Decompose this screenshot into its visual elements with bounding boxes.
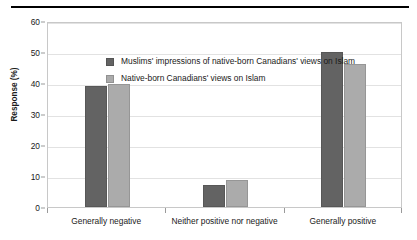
- legend-color-swatch: [106, 58, 114, 66]
- legend-label: Muslims' impressions of native-born Cana…: [121, 57, 355, 66]
- x-axis-tick-mark: [401, 208, 402, 213]
- top-horizontal-rule: [11, 6, 409, 8]
- y-axis-tick-label: 50: [31, 49, 40, 57]
- y-axis-tick-label: 0: [35, 204, 40, 212]
- x-axis-tick-labels: Generally negativeNeither positive nor n…: [47, 216, 402, 232]
- plot-area: Muslims' impressions of native-born Cana…: [47, 22, 402, 208]
- bar-group: [203, 23, 248, 207]
- y-axis-tick-mark: [41, 53, 45, 54]
- y-axis-title: Response (%): [10, 55, 19, 135]
- bar: [203, 185, 225, 207]
- y-axis-tick-label: 40: [31, 80, 40, 88]
- x-axis-tick-mark: [284, 208, 285, 213]
- bar-series-container: [48, 23, 401, 207]
- y-axis-tick-label: 10: [31, 173, 40, 181]
- legend-color-swatch: [106, 75, 114, 83]
- legend-item: Native-born Canadians' views on Islam: [106, 71, 417, 86]
- bar: [108, 84, 130, 207]
- legend-item: Muslims' impressions of native-born Cana…: [106, 54, 417, 69]
- y-axis-tick-mark: [41, 177, 45, 178]
- x-axis-tick-mark: [47, 208, 48, 213]
- y-axis-tick-mark: [41, 84, 45, 85]
- legend-label: Native-born Canadians' views on Islam: [121, 74, 266, 83]
- x-axis-tick-marks: [47, 208, 402, 214]
- bar: [85, 86, 107, 207]
- x-axis-tick-label: Neither positive nor negative: [171, 216, 277, 226]
- y-axis-tick-label: 60: [31, 18, 40, 26]
- chart-figure: Response (%) 0102030405060 Muslims' impr…: [0, 0, 417, 240]
- legend: Muslims' impressions of native-born Cana…: [106, 54, 417, 88]
- bar-group: [85, 23, 130, 207]
- x-axis-tick-label: Generally negative: [71, 216, 141, 226]
- y-axis-tick-mark: [41, 146, 45, 147]
- bar: [226, 180, 248, 207]
- bar-group: [321, 23, 366, 207]
- y-axis-tick-labels: 0102030405060: [20, 22, 45, 208]
- y-axis-tick-label: 20: [31, 142, 40, 150]
- y-axis-tick-label: 30: [31, 111, 40, 119]
- x-axis-tick-mark: [165, 208, 166, 213]
- y-axis-tick-mark: [41, 115, 45, 116]
- y-axis-tick-mark: [41, 22, 45, 23]
- y-axis-tick-mark: [41, 208, 45, 209]
- x-axis-tick-label: Generally positive: [310, 216, 377, 226]
